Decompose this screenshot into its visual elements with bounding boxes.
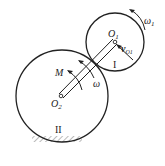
- label-gear-ii: II: [55, 124, 62, 135]
- label-o1: O1: [108, 28, 119, 41]
- label-m: M: [54, 67, 64, 78]
- label-omega: ω: [93, 78, 100, 89]
- label-vo1: vO1: [121, 43, 133, 55]
- pin-o2: [59, 94, 63, 98]
- diagram-canvas: ω1 O1 vO1 I M ω O2 II: [0, 0, 165, 166]
- label-gear-i: I: [113, 59, 116, 70]
- gear-mechanism-diagram: ω1 O1 vO1 I M ω O2 II: [0, 0, 165, 166]
- label-omega1: ω1: [144, 15, 155, 28]
- label-o2: O2: [51, 98, 62, 111]
